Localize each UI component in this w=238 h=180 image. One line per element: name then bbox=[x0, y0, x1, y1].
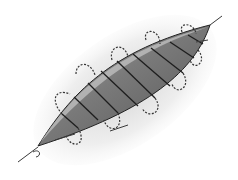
suture-drawing bbox=[0, 0, 238, 180]
suture-illustration bbox=[0, 0, 238, 180]
